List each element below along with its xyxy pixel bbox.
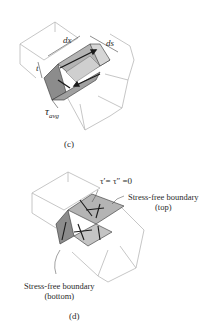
- panel-c-diagram: [0, 0, 217, 160]
- label-ds: ds: [106, 38, 114, 48]
- label-top-boundary-line2: (top): [128, 202, 199, 212]
- label-dx: dx: [63, 35, 72, 45]
- caption-d: (d): [69, 311, 80, 321]
- label-tau-avg-subscript: avg: [49, 112, 59, 120]
- element-d-left-face: [56, 210, 74, 244]
- element-d-top-face: [68, 194, 124, 224]
- caption-c: (c): [64, 139, 74, 149]
- label-bottom-boundary-line1: Stress-free boundary: [24, 281, 95, 291]
- label-top-boundary: Stress-free boundary (top): [128, 192, 199, 212]
- label-top-boundary-line1: Stress-free boundary: [128, 192, 199, 202]
- label-t: t: [36, 63, 39, 73]
- label-bottom-boundary: Stress-free boundary (bottom): [24, 281, 95, 301]
- label-bottom-boundary-line2: (bottom): [24, 291, 95, 301]
- label-tau-avg: τavg: [45, 106, 59, 121]
- label-tau-eq-zero: τ′= τ″ =0: [100, 176, 132, 186]
- element-d-front-face: [74, 224, 112, 246]
